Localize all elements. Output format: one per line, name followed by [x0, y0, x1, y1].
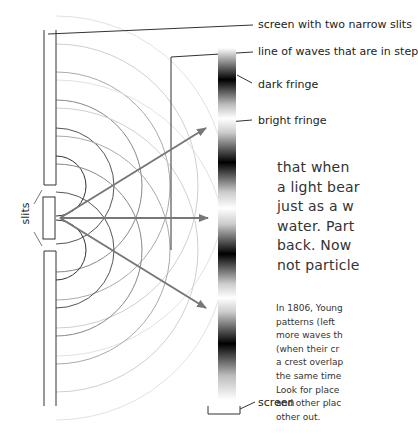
body-line: just as a w: [277, 197, 360, 217]
label-dark-fringe: dark fringe: [258, 78, 318, 91]
body-text: that when a light bear just as a w water…: [277, 158, 360, 275]
label-bright-fringe: bright fringe: [258, 114, 327, 127]
label-screen-slits: screen with two narrow slits: [258, 18, 412, 31]
body-line: a light bear: [277, 178, 360, 198]
caption-line: Look for place: [276, 384, 343, 398]
body-line: back. Now: [277, 236, 360, 256]
caption-line: more waves th: [276, 329, 343, 343]
caption-line: and other plac: [276, 397, 343, 411]
body-line: that when: [277, 158, 360, 178]
caption-line: In 1806, Young: [276, 302, 343, 316]
label-waves-in-step: line of waves that are in step: [258, 45, 418, 58]
caption-line: the same time: [276, 370, 343, 384]
fringe-screen: [218, 48, 236, 400]
body-line: not particle: [277, 256, 360, 276]
light-rays: [60, 128, 208, 308]
slit-screen: [43, 30, 56, 406]
caption-line: patterns (left: [276, 316, 343, 330]
label-slits: slits: [19, 203, 32, 225]
caption-line: a crest overlap: [276, 356, 343, 370]
caption-line: other out.: [276, 411, 343, 425]
body-line: water. Part: [277, 217, 360, 237]
caption: In 1806, Young patterns (left more waves…: [276, 302, 343, 424]
caption-line: (when their cr: [276, 343, 343, 357]
